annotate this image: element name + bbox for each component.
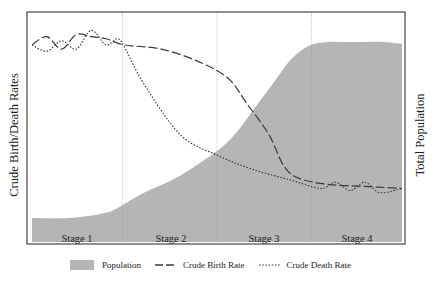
stage-label-4: Stage 4 (341, 233, 372, 244)
stage-label-3: Stage 3 (248, 233, 279, 244)
legend-label-population: Population (102, 260, 141, 270)
legend-item-population: Population (70, 260, 141, 270)
y-axis-label-left: Crude Birth/Death Rates (7, 73, 22, 197)
legend-label-death-rate: Crude Death Rate (287, 260, 351, 270)
legend-item-birth-rate: Crude Birth Rate (155, 260, 245, 270)
y-axis-label-right: Total Population (413, 94, 428, 177)
chart-legend: Population Crude Birth Rate Crude Death … (70, 258, 365, 272)
population-swatch-icon (70, 260, 94, 270)
legend-label-birth-rate: Crude Birth Rate (183, 260, 245, 270)
plot-area (27, 12, 405, 244)
dashed-line-swatch-icon (155, 261, 177, 269)
dotted-line-swatch-icon (259, 261, 281, 269)
stage-label-1: Stage 1 (61, 233, 92, 244)
stage-label-2: Stage 2 (155, 233, 186, 244)
legend-item-death-rate: Crude Death Rate (259, 260, 351, 270)
